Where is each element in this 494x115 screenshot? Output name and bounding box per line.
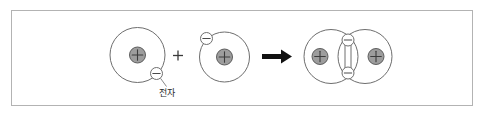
electron-label: 전자 [159,88,176,98]
covalent-bond-diagram: 전자 [0,0,494,115]
reaction-arrow-head [281,50,292,64]
figure-root: 전자 [0,0,494,115]
reaction-arrow [262,50,292,64]
hydrogen-atom-left [110,28,165,83]
hydrogen-molecule [304,30,392,84]
plus-operator [173,51,183,61]
hydrogen-atom-right [200,32,250,82]
electron-callout-leader-line [161,78,167,86]
electron-callout: 전자 [159,78,176,98]
